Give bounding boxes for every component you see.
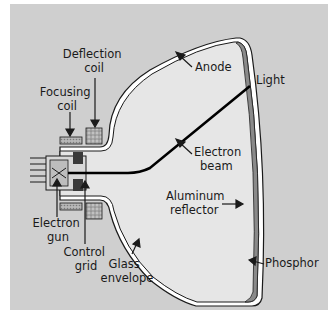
focusing-coil-top [60, 137, 82, 144]
label-light: Light [256, 73, 285, 87]
crt-diagram: Deflection coil Focusing coil Anode Ligh… [0, 0, 336, 329]
focusing-coil-bottom [60, 203, 82, 210]
label-deflection-coil: Deflection coil [63, 47, 125, 75]
control-grid-upper [73, 152, 83, 164]
control-grid-lower [73, 179, 83, 191]
deflection-coil-bottom [86, 203, 102, 219]
label-phosphor: Phosphor [265, 256, 319, 270]
deflection-coil-top [86, 128, 102, 144]
label-electron-gun: Electron gun [33, 216, 84, 244]
label-focusing-coil: Focusing coil [40, 85, 94, 113]
label-anode: Anode [195, 60, 232, 74]
label-control-grid: Control grid [63, 245, 108, 273]
